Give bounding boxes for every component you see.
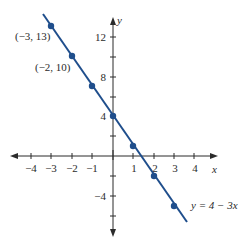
y-tick-label: 12: [95, 31, 106, 43]
point-annotation: (−3, 13): [15, 30, 51, 43]
data-point: [171, 203, 177, 209]
x-axis: [14, 153, 214, 159]
data-point: [130, 143, 136, 149]
x-tick-label: 3: [172, 162, 178, 174]
x-tick-label: 4: [192, 162, 198, 174]
x-tick-label: −1: [86, 162, 98, 174]
x-axis-label: x: [211, 163, 217, 175]
y-axis: [110, 21, 116, 233]
data-point: [110, 113, 116, 119]
y-tick-label: −4: [94, 190, 106, 202]
chart-canvas: −4 −3 −2 −1 1 2 3 4 x y 12 8 4 −4 (−3, 1…: [0, 0, 244, 243]
data-point: [48, 23, 54, 29]
y-tick-label: 8: [101, 71, 107, 83]
data-point: [89, 83, 95, 89]
point-annotation: (−2, 10): [35, 61, 71, 74]
y-tick-label: 4: [101, 110, 107, 122]
x-tick-label: −2: [66, 162, 78, 174]
x-tick-label: 1: [131, 162, 137, 174]
x-tick-label: −3: [45, 162, 57, 174]
data-point: [69, 53, 75, 59]
y-axis-label: y: [116, 14, 122, 26]
x-tick-label: −4: [25, 162, 37, 174]
data-point: [151, 173, 157, 179]
equation-label: y = 4 − 3x: [190, 199, 238, 211]
